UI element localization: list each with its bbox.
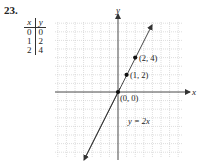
y-axis-label: y xyxy=(115,5,120,15)
point-1-2 xyxy=(125,73,129,77)
label-point-1-2: (1, 2) xyxy=(130,70,149,80)
equation-label: y = 2x xyxy=(127,116,150,126)
label-point-0-0: (0, 0) xyxy=(120,93,139,103)
label-point-2-4: (2, 4) xyxy=(139,53,158,63)
coordinate-graph: x y (0, 0) (1, 2) (2, 4) y = 2x xyxy=(0,0,200,168)
x-axis-label: x xyxy=(191,87,196,97)
point-2-4 xyxy=(133,56,137,60)
